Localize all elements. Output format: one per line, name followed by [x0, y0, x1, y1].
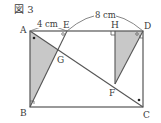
geometry-figure: 図 3 A B C D E H G F 4 cm 8 cm: [0, 0, 161, 123]
label-e: E: [63, 20, 70, 30]
angle-circle-e: [62, 33, 65, 36]
label-b: B: [20, 108, 27, 118]
label-c: C: [143, 110, 150, 120]
label-g: G: [57, 55, 64, 65]
label-a: A: [19, 25, 27, 35]
label-f: F: [109, 88, 115, 98]
measurement-ae: 4 cm: [37, 19, 58, 29]
angle-dot-a: [33, 37, 36, 40]
measurement-ed: 8 cm: [95, 10, 116, 20]
label-d: D: [144, 21, 151, 31]
shaded-triangle-abg: [30, 31, 58, 107]
figure-title: 図 3: [14, 4, 34, 15]
label-h: H: [111, 20, 119, 30]
angle-dot-c: [138, 99, 141, 102]
